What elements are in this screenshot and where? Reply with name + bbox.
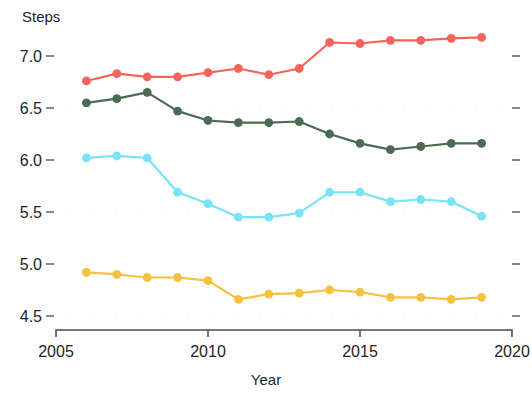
x-axis-line: [56, 330, 512, 337]
data-point: [447, 197, 456, 206]
data-point: [173, 273, 182, 282]
data-point: [112, 94, 121, 103]
y-tick-label: 6.0: [20, 152, 42, 169]
series-line: [86, 156, 481, 217]
data-point: [477, 139, 486, 148]
data-point: [477, 293, 486, 302]
data-point: [477, 33, 486, 42]
data-point: [325, 38, 334, 47]
data-point: [82, 77, 91, 86]
data-point: [325, 286, 334, 295]
data-point: [447, 139, 456, 148]
data-point: [356, 139, 365, 148]
data-point: [143, 72, 152, 81]
data-point: [234, 64, 243, 73]
series-line: [86, 92, 481, 149]
data-point: [82, 154, 91, 163]
data-point: [112, 270, 121, 279]
data-point: [143, 154, 152, 163]
data-point: [264, 290, 273, 299]
data-point: [356, 288, 365, 297]
data-point: [356, 39, 365, 48]
data-point: [112, 69, 121, 78]
data-point: [386, 145, 395, 154]
data-point: [234, 213, 243, 222]
x-axis: 2005201020152020: [38, 330, 530, 360]
data-point: [173, 72, 182, 81]
x-tick-label: 2015: [342, 343, 378, 360]
series-gold-series: [82, 268, 486, 304]
data-point: [416, 36, 425, 45]
data-point: [295, 64, 304, 73]
data-point: [295, 117, 304, 126]
data-point: [264, 70, 273, 79]
data-point: [143, 88, 152, 97]
y-tick-label: 7.0: [20, 48, 42, 65]
y-tick-label: 5.5: [20, 204, 42, 221]
series-red-series: [82, 33, 486, 85]
y-axis-ticks: 4.55.05.56.06.57.0: [20, 48, 520, 325]
x-tick-label: 2020: [494, 343, 530, 360]
data-point: [173, 107, 182, 116]
data-point: [386, 293, 395, 302]
data-point: [295, 289, 304, 298]
data-point: [204, 199, 213, 208]
data-point: [234, 295, 243, 304]
data-point: [295, 209, 304, 218]
chart-canvas: 4.55.05.56.06.57.0 2005201020152020 Step…: [0, 0, 532, 394]
data-point: [112, 151, 121, 160]
y-tick-label: 5.0: [20, 256, 42, 273]
series-cyan-series: [82, 151, 486, 221]
y-axis-title: Steps: [22, 8, 60, 25]
y-tick-label: 4.5: [20, 308, 42, 325]
data-point: [386, 197, 395, 206]
data-point: [82, 98, 91, 107]
series-dark-green-series: [82, 88, 486, 154]
data-point: [143, 273, 152, 282]
data-point: [204, 116, 213, 125]
data-point: [447, 34, 456, 43]
data-point: [416, 195, 425, 204]
data-point: [82, 268, 91, 277]
data-point: [416, 142, 425, 151]
y-tick-label: 6.5: [20, 100, 42, 117]
data-point: [356, 188, 365, 197]
data-point: [204, 68, 213, 77]
data-point: [477, 212, 486, 221]
data-point: [173, 188, 182, 197]
data-point: [204, 276, 213, 285]
data-point: [264, 213, 273, 222]
x-axis-title: Year: [251, 371, 281, 388]
data-point: [264, 118, 273, 127]
data-point: [386, 36, 395, 45]
x-tick-label: 2010: [190, 343, 226, 360]
data-point: [325, 188, 334, 197]
series-layer: [82, 33, 486, 304]
data-point: [325, 130, 334, 139]
data-point: [234, 118, 243, 127]
data-point: [447, 295, 456, 304]
line-chart: 4.55.05.56.06.57.0 2005201020152020 Step…: [0, 0, 532, 394]
axis-labels: Steps Year: [22, 8, 281, 388]
data-point: [416, 293, 425, 302]
x-tick-label: 2005: [38, 343, 74, 360]
